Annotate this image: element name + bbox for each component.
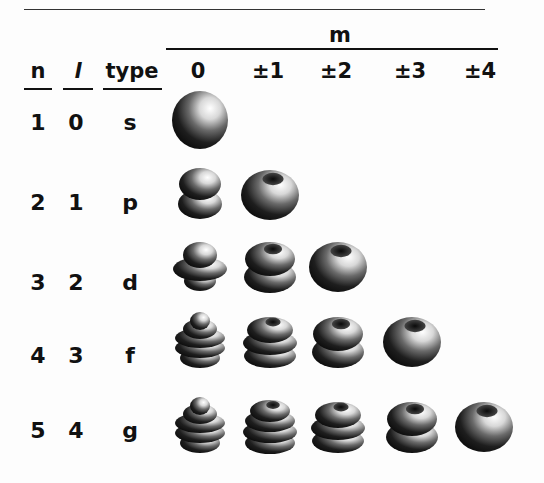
row-2-l: 1 (68, 192, 83, 214)
orbital-n2-m0 (160, 153, 240, 233)
m-group-rule (166, 48, 498, 50)
row-4-n: 4 (30, 345, 45, 367)
orbital-n3-m0 (160, 225, 240, 305)
row-1-l: 0 (68, 112, 83, 134)
row-5-l: 4 (68, 420, 83, 442)
top-rule (24, 9, 485, 10)
m-header-4: ±4 (464, 60, 496, 82)
m-header-0: 0 (191, 60, 206, 82)
orbital-n5-m3 (372, 385, 452, 465)
m-header-2: ±2 (320, 60, 352, 82)
orbital-n5-m4 (444, 385, 524, 465)
m-header-1: ±1 (252, 60, 284, 82)
row-1-type: s (123, 112, 136, 134)
row-4-l: 3 (68, 345, 83, 367)
n-column-header: n (31, 60, 46, 82)
orbital-n3-m2 (298, 225, 378, 305)
m-header-3: ±3 (394, 60, 426, 82)
row-5-n: 5 (30, 420, 45, 442)
row-3-n: 3 (30, 272, 45, 294)
orbital-n5-m0 (160, 385, 240, 465)
l-column-header: l (74, 60, 81, 82)
l-underline (63, 88, 93, 90)
row-3-l: 2 (68, 272, 83, 294)
row-1-n: 1 (30, 112, 45, 134)
orbital-n4-m0 (160, 300, 240, 380)
m-group-label: m (329, 24, 351, 46)
orbital-n4-m2 (298, 300, 378, 380)
type-underline (103, 88, 162, 90)
row-4-type: f (125, 345, 135, 367)
row-3-type: d (122, 272, 138, 294)
n-underline (24, 88, 52, 90)
orbital-n2-m1 (230, 153, 310, 233)
row-2-type: p (122, 192, 138, 214)
orbital-n4-m3 (372, 300, 452, 380)
orbital-n5-m2 (298, 385, 378, 465)
row-2-n: 2 (30, 192, 45, 214)
orbital-n1-m0 (160, 80, 240, 160)
type-column-header: type (105, 60, 158, 82)
row-5-type: g (122, 420, 138, 442)
